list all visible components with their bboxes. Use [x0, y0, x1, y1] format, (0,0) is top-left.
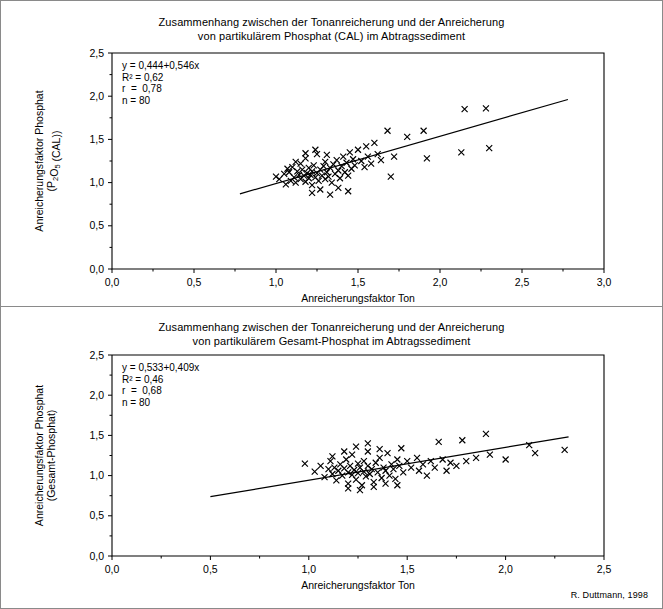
- data-point-marker: [532, 450, 538, 456]
- y-tick-label: 2,5: [89, 349, 104, 361]
- data-point-marker: [283, 181, 289, 187]
- data-point-marker: [377, 455, 383, 461]
- data-point-marker: [293, 159, 299, 165]
- y-tick-label: 1,0: [89, 176, 104, 188]
- data-point-marker: [365, 440, 371, 446]
- x-tick-label: 3,0: [597, 276, 612, 288]
- x-tick-label: 0,0: [105, 276, 120, 288]
- data-point-marker: [379, 475, 385, 481]
- data-point-marker: [349, 452, 355, 458]
- chart-panel-cal: Zusammenhang zwischen der Tonanreicherun…: [1, 1, 662, 306]
- data-point-marker: [309, 182, 315, 188]
- x-tick-label: 2,0: [498, 563, 513, 575]
- data-point-marker: [394, 457, 400, 463]
- data-point-marker: [404, 134, 410, 140]
- data-point-marker: [362, 164, 368, 170]
- data-point-marker: [447, 460, 453, 466]
- data-point-marker: [453, 463, 459, 469]
- data-point-marker: [345, 485, 351, 491]
- y-tick-label: 0,5: [89, 509, 104, 521]
- data-point-marker: [562, 447, 568, 453]
- data-point-marker: [343, 457, 349, 463]
- y-axis-title: Anreicherungsfaktor Phosphat: [33, 90, 45, 231]
- data-point-marker: [299, 167, 305, 173]
- x-axis-title: Anreicherungsfaktor Ton: [301, 292, 415, 304]
- x-tick-label: 0,0: [105, 563, 120, 575]
- data-point-marker: [392, 476, 398, 482]
- x-tick-label: 2,5: [597, 563, 612, 575]
- y-tick-label: 2,0: [89, 389, 104, 401]
- y-axis-title: Anreicherungsfaktor Phosphat: [33, 385, 45, 526]
- x-tick-label: 1,5: [351, 276, 366, 288]
- data-point-marker: [483, 431, 489, 437]
- data-point-marker: [327, 192, 333, 198]
- data-point-marker: [400, 469, 406, 475]
- data-point-marker: [377, 446, 383, 452]
- data-point-marker: [424, 473, 430, 479]
- data-point-marker: [421, 128, 427, 134]
- data-point-marker: [334, 157, 340, 163]
- correlation-value: r = 0,78: [122, 83, 162, 94]
- scatter-plot-gesamt: 0,00,51,01,52,02,50,00,51,01,52,02,5Anre…: [1, 307, 663, 609]
- correlation-value: r = 0,68: [122, 385, 162, 396]
- data-point-marker: [325, 466, 331, 472]
- data-point-marker: [483, 105, 489, 111]
- data-point-marker: [463, 458, 469, 464]
- scatter-plot-cal: 0,00,51,01,52,02,50,00,51,01,52,02,53,0A…: [1, 1, 663, 306]
- y-tick-label: 1,0: [89, 469, 104, 481]
- y-tick-label: 0,0: [89, 550, 104, 562]
- data-point-marker: [368, 161, 374, 167]
- data-point-marker: [383, 468, 389, 474]
- data-point-marker: [365, 448, 371, 454]
- data-point-marker: [420, 461, 426, 467]
- regression-equation: y = 0,533+0,409x: [122, 362, 199, 373]
- data-point-marker: [428, 458, 434, 464]
- data-point-marker: [361, 458, 367, 464]
- y-tick-label: 0,0: [89, 263, 104, 275]
- y-axis-title: (P2O5 (CAL)): [45, 131, 62, 192]
- data-point-marker: [302, 461, 308, 467]
- x-tick-label: 1,0: [269, 276, 284, 288]
- r-squared-value: R² = 0,62: [122, 72, 164, 83]
- x-tick-label: 1,5: [400, 563, 415, 575]
- data-point-marker: [329, 180, 335, 186]
- data-point-marker: [281, 171, 287, 177]
- data-point-marker: [462, 106, 468, 112]
- data-point-marker: [345, 173, 351, 179]
- data-point-marker: [436, 439, 442, 445]
- data-point-marker: [487, 452, 493, 458]
- data-point-marker: [309, 190, 315, 196]
- credit-attribution: R. Duttmann, 1998: [571, 590, 648, 600]
- data-point-marker: [486, 145, 492, 151]
- data-point-marker: [345, 188, 351, 194]
- data-point-marker: [333, 477, 339, 483]
- data-point-marker: [312, 469, 318, 475]
- y-tick-label: 1,5: [89, 133, 104, 145]
- data-point-marker: [444, 468, 450, 474]
- data-point-marker: [408, 465, 414, 471]
- data-point-marker: [335, 168, 341, 174]
- y-tick-label: 1,5: [89, 429, 104, 441]
- data-point-marker: [458, 149, 464, 155]
- data-point-marker: [340, 154, 346, 160]
- data-point-marker: [385, 128, 391, 134]
- data-point-marker: [347, 149, 353, 155]
- data-point-marker: [293, 180, 299, 186]
- data-point-marker: [398, 445, 404, 451]
- y-tick-label: 2,5: [89, 47, 104, 59]
- y-axis-title: (Gesamt-Phosphat): [45, 410, 57, 502]
- data-point-marker: [352, 162, 358, 168]
- data-point-marker: [355, 147, 361, 153]
- x-tick-label: 0,5: [187, 276, 202, 288]
- data-point-marker: [371, 140, 377, 146]
- data-point-marker: [353, 477, 359, 483]
- x-tick-label: 2,5: [515, 276, 530, 288]
- data-point-marker: [459, 437, 465, 443]
- chart-panel-gesamt: Zusammenhang zwischen der Tonanreicherun…: [1, 306, 662, 608]
- data-point-marker: [416, 468, 422, 474]
- x-tick-label: 1,0: [301, 563, 316, 575]
- data-point-marker: [385, 450, 391, 456]
- data-point-marker: [386, 473, 392, 479]
- x-tick-label: 2,0: [433, 276, 448, 288]
- data-point-marker: [318, 463, 324, 469]
